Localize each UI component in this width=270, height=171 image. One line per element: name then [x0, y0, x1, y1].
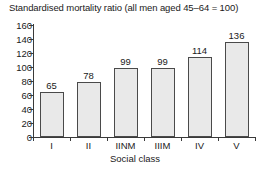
x-axis-tick-mark: [181, 137, 182, 141]
x-axis-tick-label: V: [233, 140, 239, 151]
y-axis-tick-label: 40: [2, 104, 32, 115]
x-axis-tick-label: IIIM: [155, 140, 171, 151]
y-axis-tick-label: 60: [2, 90, 32, 101]
x-axis-tick-label: II: [86, 140, 91, 151]
x-axis-tick-label: I: [50, 140, 53, 151]
y-axis-tick-label: 160: [2, 20, 32, 31]
x-axis-tick-mark: [144, 137, 145, 141]
plot-area: [33, 25, 255, 137]
y-axis-tick-label: 120: [2, 48, 32, 59]
bar-value-label: 78: [83, 70, 94, 81]
x-axis-tick-mark: [33, 137, 34, 141]
bar-value-label: 114: [192, 45, 207, 56]
x-axis-tick-mark: [255, 137, 256, 141]
y-axis-tick-label: 0: [2, 132, 32, 143]
x-axis-tick-mark: [107, 137, 108, 141]
x-axis-tick-mark: [218, 137, 219, 141]
x-axis-tick-label: IV: [195, 140, 204, 151]
y-axis-tick-label: 100: [2, 62, 32, 73]
bar-value-label: 99: [120, 56, 131, 67]
bar-value-label: 99: [157, 56, 168, 67]
y-axis-tick-label: 20: [2, 118, 32, 129]
bar: [188, 57, 212, 137]
bar: [225, 42, 249, 137]
bar: [40, 92, 64, 138]
bar: [77, 82, 101, 137]
chart-title: Standardised mortality ratio (all men ag…: [9, 2, 238, 13]
x-axis-tick-mark: [70, 137, 71, 141]
bar-value-label: 136: [229, 30, 245, 41]
bar: [114, 68, 138, 137]
bar: [151, 68, 175, 137]
y-axis-tick-label: 80: [2, 76, 32, 87]
x-axis-title: Social class: [0, 153, 270, 164]
x-axis-tick-label: IINM: [115, 140, 135, 151]
y-axis-tick-label: 140: [2, 34, 32, 45]
bar-chart: Standardised mortality ratio (all men ag…: [0, 0, 270, 171]
bar-value-label: 65: [46, 80, 57, 91]
